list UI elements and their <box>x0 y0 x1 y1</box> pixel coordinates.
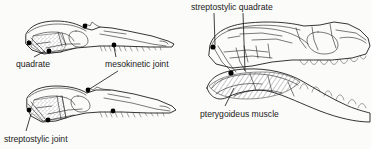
joint-marker-snout-lower <box>111 109 116 114</box>
joint-marker-quadrate-lower-upper <box>47 49 52 54</box>
label-streptostylic-quadrate: streptostylic quadrate <box>191 2 273 12</box>
joint-marker-quadrate-upper <box>27 41 32 46</box>
label-pterygoideus-muscle: pterygoideus muscle <box>200 109 279 119</box>
label-streptostylic-joint: streptostylic joint <box>4 134 68 144</box>
joint-marker-snout-upper <box>112 43 117 48</box>
joint-marker-mesokinetic-lower <box>86 88 91 93</box>
label-quadrate: quadrate <box>16 59 50 69</box>
joint-marker-streptostylic-lower <box>27 108 32 113</box>
joint-marker-mesokinetic-upper <box>83 24 88 29</box>
joint-marker-jaw-articulation-right <box>228 70 233 75</box>
label-mesokinetic-joint: mesokinetic joint <box>105 59 169 69</box>
joint-marker-jaw-lower <box>46 118 51 123</box>
joint-marker-quadrate-top-right <box>210 44 215 49</box>
figure-background <box>0 0 371 149</box>
skull-kinesis-diagram: quadrate mesokinetic joint <box>0 0 371 149</box>
